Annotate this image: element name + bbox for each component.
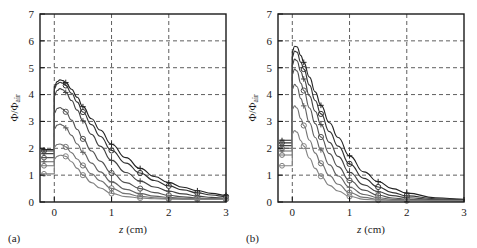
panel-a-label: (a) [8, 232, 20, 244]
y-tick-label: 2 [267, 142, 273, 154]
grid-lines [40, 14, 226, 202]
x-tick-label: 0 [52, 206, 58, 218]
y-tick-label: 6 [267, 35, 273, 47]
y-tick-label: 4 [29, 88, 35, 100]
marker-group-2 [280, 66, 410, 198]
y-tick-label: 0 [29, 196, 35, 208]
panel-b-label: (b) [246, 232, 259, 244]
curve-7 [280, 131, 464, 201]
panel-a: 012345670123z (cm)Φ/Φair (a) [0, 0, 238, 248]
y-tick-label: 5 [267, 62, 273, 74]
panel-b: 012345670123z (cm)Φ/Φair (b) [238, 0, 476, 248]
marker-group-2 [42, 83, 229, 199]
plot-area-a: 012345670123z (cm)Φ/Φair [0, 0, 238, 248]
y-axis-title: Φ/Φair [246, 94, 260, 122]
marker-group-5 [42, 125, 229, 202]
axis-frame [278, 14, 464, 202]
figure: 012345670123z (cm)Φ/Φair (a) 01234567012… [0, 0, 477, 248]
y-tick-label: 4 [267, 88, 273, 100]
y-tick-label: 0 [267, 196, 273, 208]
x-axis-title: z (cm) [118, 223, 147, 236]
y-tick-label: 7 [267, 8, 273, 20]
x-tick-label: 0 [290, 206, 296, 218]
marker-group-6 [280, 123, 410, 203]
y-tick-label: 2 [29, 142, 35, 154]
x-axis-title: z (cm) [356, 223, 385, 236]
curve-1 [280, 46, 464, 199]
y-tick-label: 3 [267, 115, 273, 127]
y-tick-label: 5 [29, 62, 35, 74]
curve-group [42, 80, 229, 202]
axis-frame [40, 14, 226, 202]
x-tick-label: 1 [347, 206, 353, 218]
curve-group [280, 46, 464, 203]
x-tick-label: 3 [461, 206, 467, 218]
curve-3 [42, 89, 226, 199]
x-tick-label: 2 [166, 206, 172, 218]
tick-group: 012345670123 [29, 8, 230, 218]
y-tick-label: 7 [29, 8, 35, 20]
curve-5 [42, 124, 226, 199]
y-tick-label: 3 [29, 115, 35, 127]
y-tick-label: 6 [29, 35, 35, 47]
marker-group-3 [42, 90, 229, 201]
y-tick-label: 1 [267, 169, 273, 181]
grid-lines [278, 14, 464, 202]
y-tick-label: 1 [29, 169, 35, 181]
x-tick-label: 2 [404, 206, 410, 218]
x-tick-label: 3 [223, 206, 229, 218]
x-tick-label: 1 [109, 206, 115, 218]
marker-group-4 [280, 88, 410, 202]
plot-area-b: 012345670123z (cm)Φ/Φair [238, 0, 476, 248]
tick-group: 012345670123 [267, 8, 468, 218]
y-axis-title: Φ/Φair [8, 94, 22, 122]
